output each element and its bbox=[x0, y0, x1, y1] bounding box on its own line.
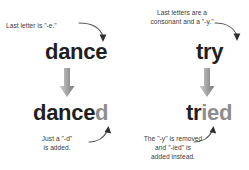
base-word-try-text: try bbox=[196, 39, 223, 64]
result-word-tried: tried bbox=[186, 101, 232, 125]
caption-dance-rule: Last letter is "-e." bbox=[6, 21, 84, 30]
down-block-arrow-right bbox=[199, 68, 215, 98]
result-word-tried-suffix: ied bbox=[201, 100, 232, 125]
result-word-tried-stem: tr bbox=[186, 100, 201, 125]
result-word-danced: danced bbox=[33, 101, 108, 125]
caption-tried-explanation: The "-y" is removed and "-ied" is added … bbox=[121, 134, 225, 162]
past-tense-rules-diagram: Last letter is "-e." Last letters are a … bbox=[0, 0, 249, 170]
base-word-dance-text: dance bbox=[45, 39, 107, 64]
result-word-danced-suffix: d bbox=[95, 100, 108, 125]
result-word-danced-stem: dance bbox=[33, 100, 95, 125]
down-block-arrow-left bbox=[59, 68, 75, 98]
base-word-dance: dance bbox=[45, 40, 107, 64]
base-word-try: try bbox=[196, 40, 223, 64]
caption-danced-explanation: Just a "-d" is added. bbox=[22, 134, 92, 152]
